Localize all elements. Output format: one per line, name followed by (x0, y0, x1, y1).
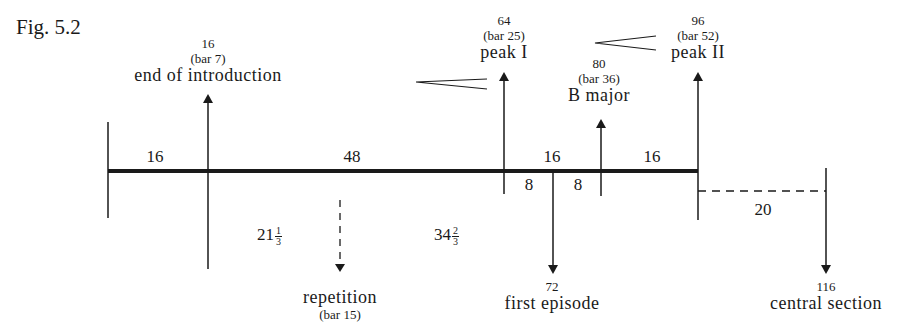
arrow-up-icon (499, 72, 509, 81)
marker-peak-ii: 96 (bar 52) peak II (671, 14, 725, 61)
marker-bar: (bar 15) (303, 308, 377, 321)
segment-label: 48 (344, 148, 361, 165)
marker-peak-i: 64 (bar 25) peak I (480, 14, 527, 61)
arrow-down-icon (548, 265, 558, 274)
marker-central-section: 116 central section (770, 280, 882, 312)
marker-name: peak II (671, 43, 725, 61)
marker-repetition: repetition (bar 15) (303, 288, 377, 321)
marker-value: 116 (770, 280, 882, 293)
subsegment-label: 8 (574, 176, 583, 193)
segment-label: 16 (544, 148, 561, 165)
marker-name: end of introduction (134, 66, 281, 84)
segment-label: 16 (644, 148, 661, 165)
proportion-whole: 34 (434, 225, 451, 244)
proportion-whole: 21 (257, 225, 274, 244)
proportion-label: 3423 (434, 226, 459, 247)
marker-first-episode: 72 first episode (505, 280, 600, 312)
proportion-label: 2113 (257, 226, 282, 247)
arrow-up-icon (596, 119, 606, 128)
segment-label: 16 (147, 148, 164, 165)
marker-b-major: 80 (bar 36) B major (568, 57, 630, 104)
marker-value: 16 (134, 37, 281, 50)
arrow-up-icon (203, 94, 213, 103)
dashed-segment-label: 20 (755, 201, 772, 218)
proportion-denominator: 3 (452, 237, 459, 247)
marker-name: B major (568, 86, 630, 104)
marker-name: central section (770, 294, 882, 312)
marker-bar: (bar 52) (671, 29, 725, 42)
arrow-down-icon (335, 264, 345, 272)
marker-name: peak I (480, 43, 527, 61)
marker-value: 96 (671, 14, 725, 27)
subsegment-label: 8 (525, 176, 534, 193)
marker-value: 80 (568, 57, 630, 70)
marker-bar: (bar 25) (480, 29, 527, 42)
crescendo-hairpin-icon (595, 36, 656, 50)
arrow-up-icon (693, 72, 703, 81)
marker-name: first episode (505, 294, 600, 312)
crescendo-hairpin-icon (416, 79, 487, 89)
marker-end-of-introduction: 16 (bar 7) end of introduction (134, 37, 281, 84)
proportion-denominator: 3 (275, 237, 282, 247)
marker-value: 72 (505, 280, 600, 293)
marker-bar: (bar 36) (568, 72, 630, 85)
marker-value: 64 (480, 14, 527, 27)
marker-name: repetition (303, 288, 377, 306)
arrow-down-icon (821, 265, 831, 274)
marker-bar: (bar 7) (134, 52, 281, 65)
